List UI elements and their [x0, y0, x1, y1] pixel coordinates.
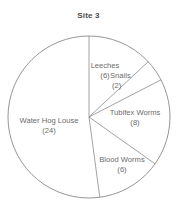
slice-label-tubifex-worms-name: Tubifex Worms [98, 108, 172, 118]
pie-chart-figure: Site 3 Leeches (6) Snails (2) Tubifex Wo… [0, 0, 177, 210]
slice-label-blood-worms-name: Blood Worms [90, 155, 154, 165]
slice-label-water-hog-louse-name: Water Hog Louse [8, 116, 90, 126]
slice-label-snails-name: Snails [110, 71, 158, 81]
slice-label-tubifex-worms-value: (8) [98, 118, 172, 128]
slice-label-water-hog-louse-value: (24) [8, 126, 90, 136]
slice-label-blood-worms-value: (6) [90, 165, 154, 175]
slice-label-snails-value: (2) [110, 81, 158, 91]
slice-label-blood-worms: Blood Worms (6) [90, 155, 154, 174]
slice-label-snails: Snails (2) [110, 71, 158, 90]
slice-label-tubifex-worms: Tubifex Worms (8) [98, 108, 172, 127]
pie-chart-graphic [0, 0, 177, 210]
slice-label-water-hog-louse: Water Hog Louse (24) [8, 116, 90, 135]
slice-label-leeches-name: Leeches [75, 61, 135, 71]
